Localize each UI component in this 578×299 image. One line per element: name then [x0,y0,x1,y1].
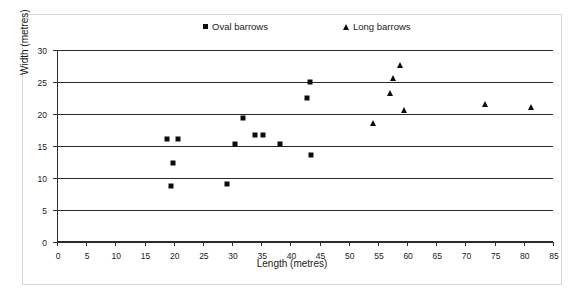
y-tick: 20 [53,114,57,115]
x-tick: 80 [524,242,525,246]
data-point-triangle [397,62,403,68]
data-point-square [232,142,237,147]
plot-area: 051015202530 051015202530354045505560657… [57,50,553,242]
x-tick: 0 [57,242,58,246]
legend-label-oval-barrows: Oval barrows [212,21,268,32]
legend-item-long-barrows: Long barrows [343,21,411,32]
x-tick: 75 [495,242,496,246]
gridline [57,210,553,211]
data-point-square [170,161,175,166]
y-tick: 5 [53,210,57,211]
data-point-square [307,80,312,85]
y-tick-label: 0 [42,238,47,248]
data-point-triangle [482,101,488,107]
gridline [57,82,553,83]
gridline [57,114,553,115]
square-marker-icon [203,24,208,29]
x-tick: 70 [465,242,466,246]
x-tick: 10 [115,242,116,246]
data-point-triangle [401,107,407,113]
x-tick: 5 [86,242,87,246]
gridline [57,146,553,147]
x-tick: 50 [349,242,350,246]
x-tick: 20 [174,242,175,246]
y-tick: 30 [53,50,57,51]
x-tick: 60 [407,242,408,246]
y-tick-label: 10 [38,174,47,184]
y-tick: 10 [53,178,57,179]
legend-item-oval-barrows: Oval barrows [203,21,268,32]
legend-label-long-barrows: Long barrows [353,21,411,32]
x-tick: 25 [203,242,204,246]
data-point-square [308,152,313,157]
y-axis-title: Width (metres) [19,9,30,75]
gridline [57,50,553,51]
data-point-square [224,181,229,186]
x-tick: 45 [320,242,321,246]
data-point-square [240,116,245,121]
gridline [57,178,553,179]
x-axis-title: Length (metres) [23,258,561,269]
data-point-triangle [370,120,376,126]
data-point-triangle [528,104,534,110]
y-tick-label: 5 [42,206,47,216]
x-tick: 30 [232,242,233,246]
x-tick: 65 [436,242,437,246]
data-point-square [252,133,257,138]
x-tick: 55 [378,242,379,246]
y-tick-label: 15 [38,142,47,152]
data-point-square [164,136,169,141]
data-point-triangle [390,75,396,81]
data-point-square [169,183,174,188]
y-tick-label: 30 [38,46,47,56]
data-point-square [304,96,309,101]
x-tick: 40 [290,242,291,246]
x-tick: 85 [553,242,554,246]
data-point-square [176,136,181,141]
y-tick: 15 [53,146,57,147]
gridline [57,242,553,243]
y-tick: 25 [53,82,57,83]
x-tick: 15 [145,242,146,246]
chart-figure: Oval barrows Long barrows 051015202530 0… [22,14,562,285]
y-tick-label: 25 [38,78,47,88]
chart-legend: Oval barrows Long barrows [23,19,561,39]
data-point-triangle [387,90,393,96]
triangle-marker-icon [343,24,349,30]
data-point-square [278,142,283,147]
data-point-square [260,133,265,138]
y-tick-label: 20 [38,110,47,120]
x-tick: 35 [261,242,262,246]
